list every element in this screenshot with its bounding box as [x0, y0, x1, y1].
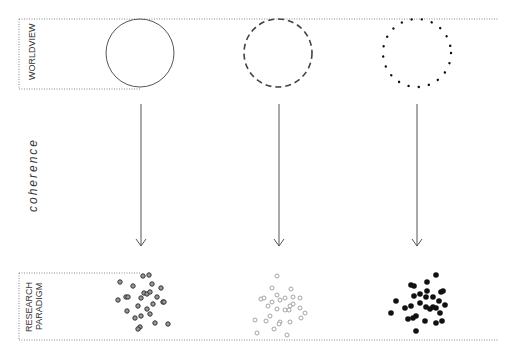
arrow-down-icon	[412, 104, 422, 246]
solid-circle	[106, 19, 174, 87]
coherence-label: coherence	[26, 138, 40, 212]
scatter-dark-ringed	[116, 273, 170, 331]
scatter-solid-black	[388, 272, 448, 334]
dashed-circle	[244, 19, 312, 87]
worldview-frame	[19, 19, 498, 89]
research-label: RESEARCH	[24, 282, 34, 332]
arrow-down-icon	[136, 104, 146, 246]
dotted-circle	[383, 19, 451, 87]
diagram-canvas: WORLDVIEW coherence RESEARCH PARADIGM	[0, 0, 514, 354]
worldview-label: WORLDVIEW	[27, 23, 37, 80]
arrow-down-icon	[274, 104, 284, 246]
paradigm-label: PARADIGM	[34, 283, 44, 330]
scatter-light-hollow	[253, 274, 307, 337]
